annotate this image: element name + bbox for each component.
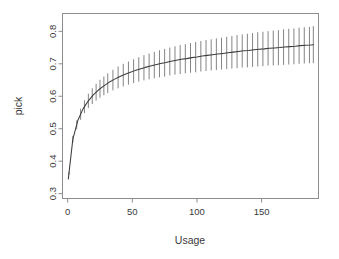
x-tick-label: 100 <box>189 206 205 217</box>
chart-figure: 0.30.40.50.60.70.8 050100150 Usage pick <box>0 0 339 259</box>
x-tick-label: 50 <box>127 206 138 217</box>
x-tick-label: 0 <box>65 206 70 217</box>
y-tick-label: 0.5 <box>47 122 58 135</box>
y-tick-label: 0.3 <box>47 187 58 200</box>
y-axis-title: pick <box>12 96 24 115</box>
y-tick-label: 0.4 <box>47 155 58 168</box>
x-axis-title: Usage <box>175 234 206 246</box>
y-tick-label: 0.7 <box>47 57 58 70</box>
plot-canvas: 0.30.40.50.60.70.8 050100150 Usage pick <box>0 0 339 259</box>
y-tick-label: 0.8 <box>47 25 58 38</box>
x-tick-label: 150 <box>254 206 270 217</box>
y-tick-label: 0.6 <box>47 90 58 103</box>
